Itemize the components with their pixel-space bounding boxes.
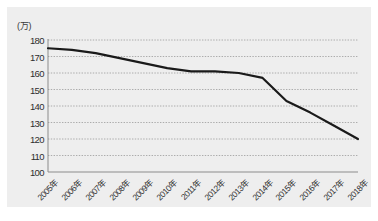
grid-lines <box>48 40 358 156</box>
axis-lines <box>48 39 358 172</box>
series-line-path <box>48 48 358 139</box>
chart-figure: (万) 180170160150140130120110100 2005年200… <box>0 0 378 221</box>
data-series-line <box>48 48 358 139</box>
chart-plot-area <box>0 0 378 221</box>
